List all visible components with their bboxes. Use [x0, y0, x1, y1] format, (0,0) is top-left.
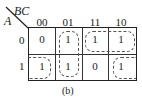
figure-caption: (b) [62, 85, 74, 96]
grid-divider [29, 54, 136, 55]
cell-0-00: 0 [29, 33, 55, 45]
group-loop-wrap-left [28, 57, 51, 79]
row-variable-label: A [4, 14, 11, 29]
cell-1-11: 0 [82, 60, 108, 72]
group-loop-col01 [59, 31, 79, 77]
row-header: 1 [19, 60, 25, 72]
col-variable-label: BC [14, 4, 29, 19]
row-header: 0 [19, 34, 25, 46]
group-loop-wrap-right [113, 57, 136, 79]
group-loop-row0-right [85, 31, 135, 52]
